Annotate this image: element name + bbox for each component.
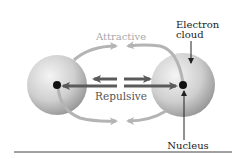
electron-cloud-label-line2: cloud bbox=[176, 29, 204, 40]
left-nucleus bbox=[53, 81, 61, 89]
repulsive-label: Repulsive bbox=[95, 90, 147, 102]
nucleus-label: Nucleus bbox=[167, 140, 208, 151]
attractive-label: Attractive bbox=[95, 31, 146, 42]
right-nucleus bbox=[179, 81, 187, 89]
attractive-arrow-top-left bbox=[74, 46, 116, 60]
atom-interaction-diagram: Attractive Repulsive Electron cloud Nucl… bbox=[0, 0, 233, 159]
attractive-arrow-bottom-right bbox=[128, 111, 166, 121]
